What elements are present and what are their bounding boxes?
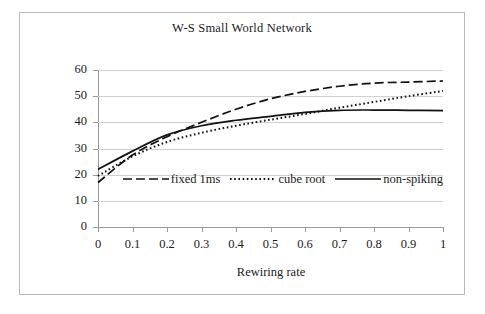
x-tick-mark (271, 228, 272, 232)
x-tick-mark (443, 228, 444, 232)
chart-legend: fixed 1mscube rootnon-spiking (98, 168, 443, 190)
series-line-cube-root (98, 91, 443, 176)
x-tick-label: 1 (423, 238, 463, 251)
y-tick-label: 10 (47, 194, 87, 207)
y-tick-label: 40 (47, 115, 87, 128)
x-tick-mark (409, 228, 410, 232)
legend-entry-cube-root[interactable]: cube root (230, 172, 325, 187)
x-tick-mark (340, 228, 341, 232)
y-tick-label: 0 (47, 220, 87, 233)
series-lines (98, 70, 443, 227)
series-line-non-spiking (98, 110, 443, 169)
x-tick-mark (374, 228, 375, 232)
x-axis-title: Rewiring rate (98, 265, 444, 280)
legend-label: cube root (278, 172, 325, 187)
chart-title: W-S Small World Network (20, 21, 464, 36)
y-tick-label: 50 (47, 89, 87, 102)
legend-label: non-spiking (383, 172, 443, 187)
legend-swatch-dotted-icon (230, 174, 276, 184)
x-tick-mark (98, 228, 99, 232)
legend-label: fixed 1ms (171, 172, 221, 187)
legend-entry-non-spiking[interactable]: non-spiking (335, 172, 443, 187)
legend-swatch-solid-icon (335, 174, 381, 184)
chart-page: W-S Small World Network 0102030405060 00… (0, 0, 485, 314)
x-tick-mark (305, 228, 306, 232)
y-tick-label: 30 (47, 142, 87, 155)
legend-entry-fixed-1ms[interactable]: fixed 1ms (123, 172, 221, 187)
x-tick-mark (167, 228, 168, 232)
x-tick-mark (133, 228, 134, 232)
legend-swatch-dashed-icon (123, 174, 169, 184)
x-tick-mark (202, 228, 203, 232)
x-tick-mark (236, 228, 237, 232)
chart-frame: W-S Small World Network 0102030405060 00… (19, 12, 465, 295)
y-tick-label: 60 (47, 63, 87, 76)
plot-area (98, 70, 443, 227)
y-tick-label: 20 (47, 168, 87, 181)
